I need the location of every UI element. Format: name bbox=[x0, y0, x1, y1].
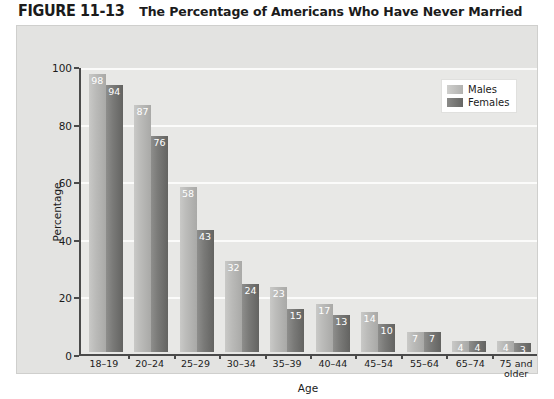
x-axis-labels: 18–1920–2425–2930–3435–3940–4445–5455–64… bbox=[81, 359, 539, 380]
y-tick-label: 20 bbox=[59, 292, 72, 304]
x-axis-label: 40–44 bbox=[310, 359, 356, 380]
legend-label: Females bbox=[468, 97, 509, 108]
bar-males: 23 bbox=[270, 287, 287, 352]
bar-value-label: 87 bbox=[134, 107, 151, 117]
bar-value-label: 58 bbox=[180, 189, 197, 199]
legend-item: Males bbox=[447, 84, 509, 95]
x-axis-label: 45–54 bbox=[356, 359, 402, 380]
bar-group: 8776 bbox=[128, 68, 173, 352]
bar-value-label: 24 bbox=[242, 286, 259, 296]
bar-females: 13 bbox=[333, 315, 350, 352]
bar-males: 4 bbox=[452, 341, 469, 352]
bar-males: 32 bbox=[225, 261, 242, 352]
x-axis-label: 18–19 bbox=[81, 359, 127, 380]
y-tick-mark bbox=[74, 182, 79, 184]
bar-value-label: 14 bbox=[361, 314, 378, 324]
y-tick-label: 100 bbox=[52, 62, 72, 74]
bar-value-label: 10 bbox=[378, 326, 395, 336]
bar-females: 7 bbox=[424, 332, 441, 352]
bar-value-label: 43 bbox=[197, 232, 214, 242]
y-tick-mark bbox=[74, 67, 79, 69]
bar-value-label: 15 bbox=[287, 311, 304, 321]
chart-legend: MalesFemales bbox=[441, 79, 517, 113]
figure-number: FIGURE 11-13 bbox=[18, 2, 124, 20]
bar-group: 3224 bbox=[219, 68, 264, 352]
bar-females: 24 bbox=[242, 284, 259, 352]
bar-value-label: 4 bbox=[469, 343, 486, 353]
x-axis-label: 65–74 bbox=[447, 359, 493, 380]
x-axis-title: Age bbox=[79, 382, 537, 394]
y-tick-mark bbox=[74, 297, 79, 299]
bar-value-label: 4 bbox=[452, 343, 469, 353]
bar-males: 14 bbox=[361, 312, 378, 352]
y-tick-label: 80 bbox=[59, 120, 72, 132]
legend-item: Females bbox=[447, 97, 509, 108]
x-axis-label: 25–29 bbox=[173, 359, 219, 380]
bar-group: 1410 bbox=[355, 68, 400, 352]
bar-value-label: 7 bbox=[424, 334, 441, 344]
legend-swatch bbox=[447, 85, 463, 94]
bar-females: 15 bbox=[287, 309, 304, 352]
bar-females: 10 bbox=[378, 324, 395, 352]
bar-males: 7 bbox=[407, 332, 424, 352]
y-tick-mark bbox=[74, 355, 79, 357]
bar-value-label: 94 bbox=[106, 87, 123, 97]
bar-value-label: 17 bbox=[316, 306, 333, 316]
bar-females: 3 bbox=[514, 343, 531, 352]
y-tick-mark bbox=[74, 125, 79, 127]
bar-value-label: 7 bbox=[407, 334, 424, 344]
x-axis-label: 20–24 bbox=[127, 359, 173, 380]
bar-group: 1713 bbox=[310, 68, 355, 352]
legend-swatch bbox=[447, 98, 463, 107]
bar-males: 4 bbox=[497, 341, 514, 352]
bar-group: 9894 bbox=[83, 68, 128, 352]
bar-value-label: 23 bbox=[270, 289, 287, 299]
bar-group: 5843 bbox=[174, 68, 219, 352]
y-tick-label: 0 bbox=[65, 350, 72, 362]
bar-value-label: 3 bbox=[514, 345, 531, 355]
legend-label: Males bbox=[468, 84, 497, 95]
bar-males: 17 bbox=[316, 304, 333, 352]
bar-males: 87 bbox=[134, 105, 151, 352]
bar-males: 98 bbox=[89, 74, 106, 352]
x-axis-label: 35–39 bbox=[264, 359, 310, 380]
bar-males: 58 bbox=[180, 187, 197, 352]
bar-females: 43 bbox=[197, 230, 214, 352]
bar-group: 2315 bbox=[265, 68, 310, 352]
x-axis-label: 30–34 bbox=[218, 359, 264, 380]
x-axis-label: 55–64 bbox=[402, 359, 448, 380]
bar-value-label: 76 bbox=[151, 138, 168, 148]
figure-panel: 9894877658433224231517131410774443 02040… bbox=[16, 25, 538, 374]
x-axis-label: 75 andolder bbox=[493, 359, 539, 380]
figure-header: FIGURE 11-13 The Percentage of Americans… bbox=[18, 2, 522, 24]
bar-group: 77 bbox=[401, 68, 446, 352]
bar-value-label: 13 bbox=[333, 317, 350, 327]
figure-title: The Percentage of Americans Who Have Nev… bbox=[139, 4, 522, 19]
bar-females: 4 bbox=[469, 341, 486, 352]
y-axis-title: Percentage bbox=[51, 182, 63, 241]
bar-value-label: 98 bbox=[89, 76, 106, 86]
bar-value-label: 4 bbox=[497, 343, 514, 353]
bar-value-label: 32 bbox=[225, 263, 242, 273]
bar-females: 76 bbox=[151, 136, 168, 352]
y-tick-mark bbox=[74, 240, 79, 242]
bar-females: 94 bbox=[106, 85, 123, 352]
